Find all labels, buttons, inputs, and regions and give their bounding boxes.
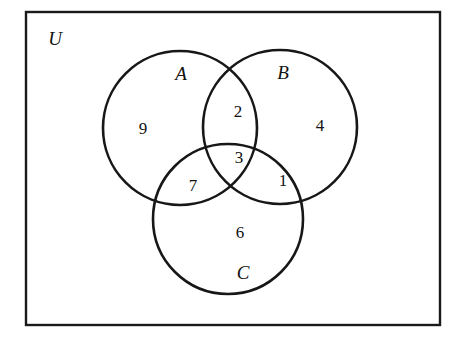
venn-diagram-graphic [0,0,461,342]
region-count-b-and-c: 1 [279,172,288,189]
set-label-b: B [277,63,289,82]
region-count-a-and-c: 7 [189,177,198,194]
universe-rectangle [26,12,440,325]
region-count-c-only: 6 [236,224,245,241]
region-count-a-b-c: 3 [235,149,244,166]
region-count-a-only: 9 [139,120,148,137]
venn-diagram-canvas: U A B C 9 2 4 3 7 1 6 [0,0,461,342]
region-count-a-and-b: 2 [234,103,243,120]
set-circle-c [153,144,303,294]
region-count-b-only: 4 [316,117,325,134]
universe-label: U [48,29,62,48]
set-label-c: C [237,263,250,282]
set-label-a: A [175,64,187,83]
